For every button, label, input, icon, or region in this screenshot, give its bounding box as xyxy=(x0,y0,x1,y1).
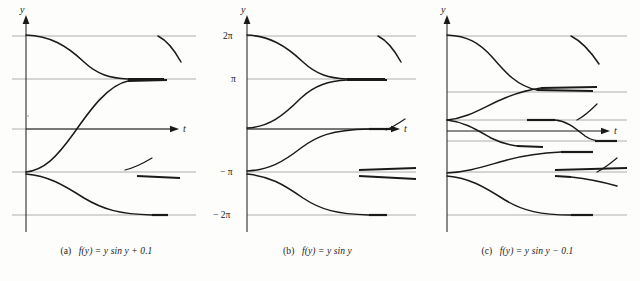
t-axis-label-b: t xyxy=(404,123,407,134)
axes-a xyxy=(23,15,179,232)
page-speck xyxy=(27,115,29,117)
panel-b: y t 2π π − π − 2π xyxy=(211,0,424,281)
gridlines-b xyxy=(247,36,416,215)
caption-a-label: (a) xyxy=(61,246,72,256)
caption-b-label: (b) xyxy=(283,246,294,256)
solution-curves-a xyxy=(26,35,181,215)
tick-label-2pi: 2π xyxy=(223,31,233,41)
plot-b: y t 2π π − π − 2π xyxy=(211,0,424,245)
y-axis-label-c: y xyxy=(440,4,446,15)
caption-c-equation: f(y) = y sin y − 0.1 xyxy=(500,246,574,256)
caption-c-label: (c) xyxy=(482,246,493,256)
caption-a-equation: f(y) = y sin y + 0.1 xyxy=(79,246,153,256)
figure-note xyxy=(0,272,640,281)
tick-label-neg-2pi: − 2π xyxy=(213,210,230,220)
gridlines-a xyxy=(12,36,196,215)
gridlines-c xyxy=(447,36,627,215)
solution-curves-c xyxy=(447,35,627,215)
y-axis-label-b: y xyxy=(240,4,246,15)
tick-label-neg-pi: − π xyxy=(220,167,233,177)
y-axis-label-a: y xyxy=(19,4,25,15)
figure-container: y t (a) f(y) = y sin y + 0.1 xyxy=(0,0,640,281)
caption-a: (a) f(y) = y sin y + 0.1 xyxy=(0,246,213,256)
y-tick-labels-b: 2π π − π − 2π xyxy=(213,31,236,220)
caption-b: (b) f(y) = y sin y xyxy=(211,246,424,256)
plot-a: y t xyxy=(0,0,213,245)
solution-curves-b xyxy=(247,35,416,215)
t-axis-label-a: t xyxy=(183,123,186,134)
panel-c: y t xyxy=(421,0,634,281)
panel-a: y t (a) f(y) = y sin y + 0.1 xyxy=(0,0,213,281)
caption-c: (c) f(y) = y sin y − 0.1 xyxy=(421,246,634,256)
caption-b-equation: f(y) = y sin y xyxy=(302,246,352,256)
plot-c: y t xyxy=(421,0,634,245)
t-axis-label-c: t xyxy=(614,125,617,136)
tick-label-pi: π xyxy=(231,74,236,84)
